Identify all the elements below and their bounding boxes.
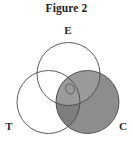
- figure-container: Figure 2 E T C: [0, 0, 133, 150]
- circle-label-c: C: [119, 120, 127, 132]
- figure-title: Figure 2: [0, 2, 133, 15]
- circle-label-e: E: [64, 24, 71, 36]
- venn-diagram: E T C: [0, 18, 133, 150]
- circle-label-t: T: [5, 120, 13, 132]
